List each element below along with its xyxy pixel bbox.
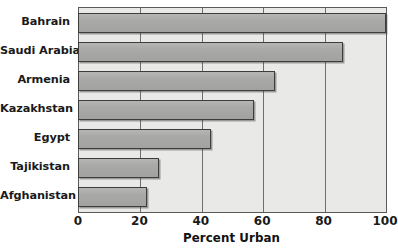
bar-bahrain[interactable] [78,13,386,33]
bar-row [79,129,386,149]
bar-row [79,187,386,207]
x-tick-100: 100 [372,214,397,228]
bar-row [79,71,386,91]
y-axis-label-armenia: Armenia [0,74,70,86]
x-axis-title: Percent Urban [78,231,385,245]
bar-row [79,13,386,33]
bar-chart-figure: BahrainSaudi ArabiaArmeniaKazakhstanEgyp… [0,0,398,248]
x-tick-20: 20 [131,214,148,228]
y-axis-label-bahrain: Bahrain [0,16,70,28]
plot-area [78,7,387,213]
x-tick-80: 80 [315,214,332,228]
x-tick-60: 60 [254,214,271,228]
bar-tajikistan[interactable] [78,158,159,178]
y-axis-category-labels: BahrainSaudi ArabiaArmeniaKazakhstanEgyp… [0,7,74,211]
bar-afghanistan[interactable] [78,187,147,207]
y-axis-label-tajikistan: Tajikistan [0,161,70,173]
x-tick-0: 0 [74,214,82,228]
bar-saudi-arabia[interactable] [78,42,343,62]
y-axis-label-kazakhstan: Kazakhstan [0,103,70,115]
x-tick-40: 40 [192,214,209,228]
y-axis-label-egypt: Egypt [0,132,70,144]
bar-row [79,100,386,120]
y-axis-label-afghanistan: Afghanistan [0,190,70,202]
bar-row [79,158,386,178]
bar-armenia[interactable] [78,71,275,91]
bar-egypt[interactable] [78,129,211,149]
y-axis-label-saudi-arabia: Saudi Arabia [0,45,70,57]
x-axis-tick-labels: 020406080100 [0,214,398,230]
bar-kazakhstan[interactable] [78,100,254,120]
bar-row [79,42,386,62]
